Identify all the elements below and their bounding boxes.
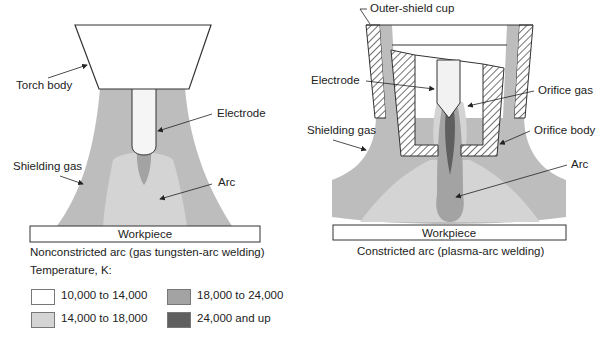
right-electrode-label: Electrode <box>311 74 360 86</box>
right-shielding-gas-label: Shielding gas <box>307 124 376 136</box>
left-shielding-gas-label: Shielding gas <box>13 160 82 172</box>
legend-swatch-18k-24k <box>167 289 191 305</box>
legend-swatch-24k-up <box>167 312 191 328</box>
right-workpiece-label: Workpiece <box>422 227 476 239</box>
left-torch-body-label: Torch body <box>16 79 73 91</box>
left-shielding-gas-leader <box>60 176 83 184</box>
left-arc-label: Arc <box>218 176 236 188</box>
legend-title: Temperature, K: <box>30 264 112 276</box>
legend-swatch-14k-18k <box>31 312 55 328</box>
right-diagram-constricted-arc: Workpiece Outer-shield cup Electrode Ori… <box>307 2 596 257</box>
right-arc-label: Arc <box>571 158 589 170</box>
legend-label-18k-24k: 18,000 to 24,000 <box>197 289 283 301</box>
right-orifice-body-label: Orifice body <box>534 124 596 136</box>
left-workpiece-label: Workpiece <box>118 228 172 240</box>
left-diagram-nonconstricted-arc: Workpiece Torch body Electrode Shielding… <box>13 25 266 258</box>
left-torch-body <box>75 25 211 89</box>
right-orifice-gas-label: Orifice gas <box>538 84 593 96</box>
legend-label-14k-18k: 14,000 to 18,000 <box>61 312 147 324</box>
right-caption: Constricted arc (plasma-arc welding) <box>357 245 544 257</box>
right-outer-shield-cup-label: Outer-shield cup <box>370 2 454 14</box>
legend-label-24k-up: 24,000 and up <box>197 312 271 324</box>
legend-swatch-10k-14k <box>31 289 55 305</box>
left-electrode <box>132 88 156 155</box>
left-torch-body-leader <box>48 65 87 78</box>
left-electrode-label: Electrode <box>217 107 266 119</box>
legend-label-10k-14k: 10,000 to 14,000 <box>61 289 147 301</box>
right-shielding-gas-leader <box>333 140 366 150</box>
right-outer-shield-cup-leader <box>360 9 370 24</box>
left-caption: Nonconstricted arc (gas tungsten-arc wel… <box>30 246 265 258</box>
